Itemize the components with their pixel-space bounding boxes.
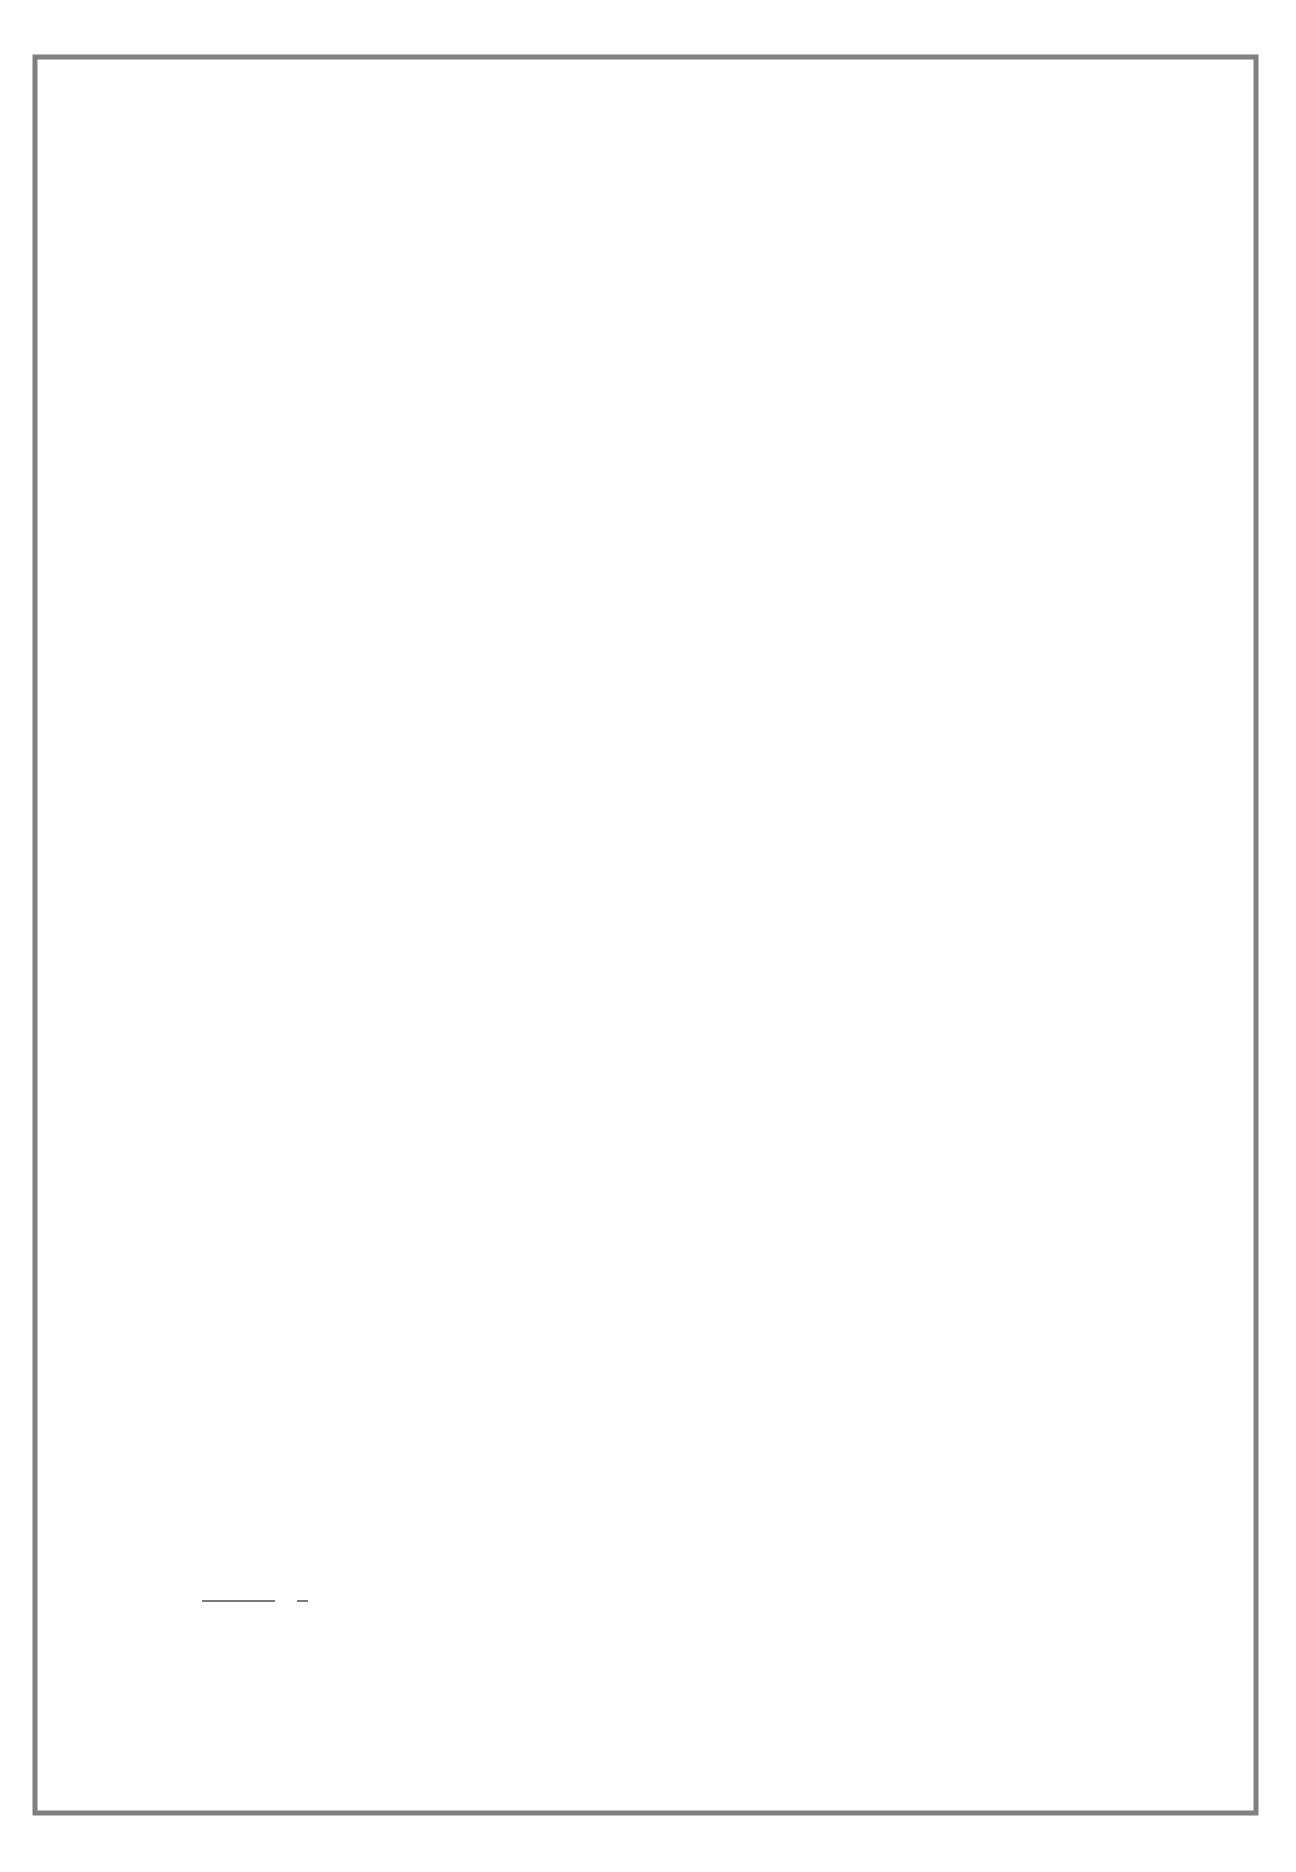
page-frame (35, 57, 1256, 1813)
concept-map (0, 0, 1296, 1872)
